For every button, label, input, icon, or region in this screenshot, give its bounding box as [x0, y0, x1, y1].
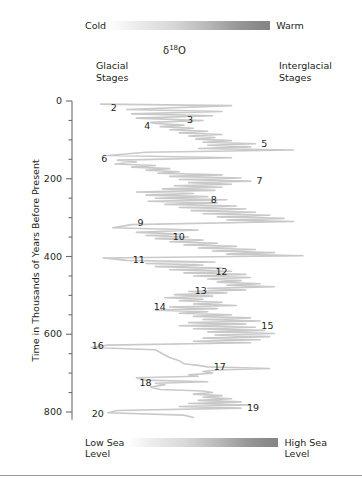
- stage-label-14: 14: [154, 301, 166, 312]
- stage-label-4: 4: [144, 120, 150, 131]
- stage-label-19: 19: [247, 402, 259, 413]
- stage-label-17: 17: [214, 361, 226, 372]
- sea-level-gradient-bar: [130, 438, 278, 447]
- sea-level-legend: Low Sea Level High Sea Level: [85, 437, 327, 459]
- stage-label-8: 8: [211, 194, 217, 205]
- stage-label-15: 15: [261, 320, 273, 331]
- stage-label-6: 6: [101, 153, 107, 164]
- stage-label-20: 20: [92, 408, 104, 419]
- stage-label-16: 16: [92, 340, 104, 351]
- stage-label-9: 9: [138, 217, 144, 228]
- stage-label-18: 18: [139, 377, 151, 388]
- stage-label-10: 10: [173, 231, 185, 242]
- stage-label-13: 13: [195, 285, 207, 296]
- stage-label-5: 5: [261, 138, 267, 149]
- stage-label-7: 7: [257, 175, 263, 186]
- stage-label-12: 12: [216, 266, 228, 277]
- legend-high-sea-level-label: High Sea Level: [284, 437, 327, 459]
- stage-label-layer: 234567891011121314151617181920: [0, 0, 362, 488]
- stage-label-11: 11: [133, 254, 145, 265]
- stage-label-2: 2: [111, 102, 117, 113]
- footer-divider: [0, 475, 362, 476]
- stage-label-3: 3: [187, 114, 193, 125]
- legend-low-sea-level-label: Low Sea Level: [85, 437, 124, 459]
- isotope-stage-figure: Cold Warm δ18O Glacial Stages Interglaci…: [0, 0, 362, 488]
